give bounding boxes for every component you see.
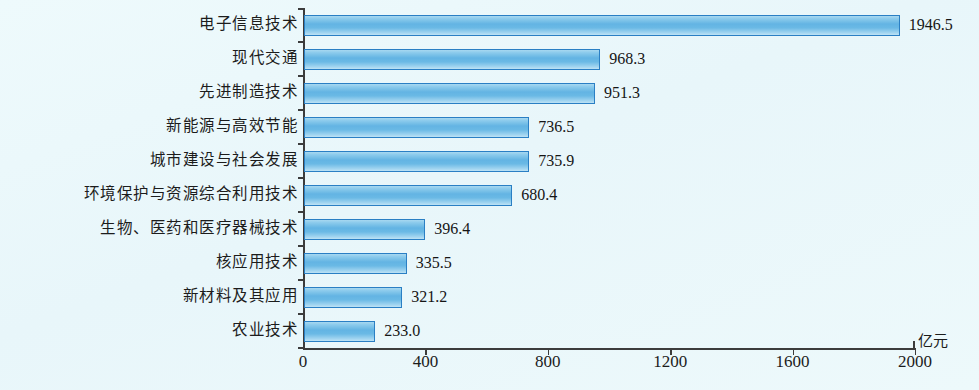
- x-axis-tick-label: 400: [413, 352, 439, 372]
- y-axis-tick: [298, 279, 304, 281]
- y-axis-tick: [298, 245, 304, 247]
- y-axis-top-cap: [298, 8, 304, 10]
- bar-value-label: 321.2: [411, 289, 447, 305]
- y-axis-tick: [298, 347, 304, 349]
- bar-value-label: 951.3: [604, 85, 640, 101]
- axis-unit-label: 亿元: [918, 329, 948, 350]
- y-axis-tick: [298, 41, 304, 43]
- category-label: 城市建设与社会发展: [150, 153, 299, 169]
- bar-value-label: 396.4: [434, 221, 470, 237]
- category-label: 新材料及其应用: [183, 289, 299, 305]
- bar-value-label: 233.0: [384, 323, 420, 339]
- bar-value-label: 1946.5: [909, 17, 953, 33]
- x-axis-tick-label: 800: [535, 352, 561, 372]
- category-label: 农业技术: [232, 323, 298, 339]
- bar: [304, 49, 600, 70]
- y-axis-tick: [298, 177, 304, 179]
- bar-chart: 电子信息技术现代交通先进制造技术新能源与高效节能城市建设与社会发展环境保护与资源…: [0, 0, 979, 390]
- bar-value-label: 968.3: [609, 51, 645, 67]
- x-axis-tick-label: 2000: [898, 352, 932, 372]
- y-axis-tick: [298, 109, 304, 111]
- bar: [304, 117, 529, 138]
- category-label: 环境保护与资源综合利用技术: [84, 187, 299, 203]
- bar: [304, 287, 402, 308]
- bar: [304, 185, 512, 206]
- y-axis-tick: [298, 143, 304, 145]
- y-axis-tick: [298, 211, 304, 213]
- category-label: 先进制造技术: [199, 85, 298, 101]
- category-label: 生物、医药和医疗器械技术: [100, 221, 298, 237]
- bar: [304, 219, 425, 240]
- bar: [304, 151, 529, 172]
- x-axis-tick-label: 0: [299, 352, 308, 372]
- x-axis-tick-label: 1600: [776, 352, 810, 372]
- bar-value-label: 736.5: [538, 119, 574, 135]
- bar: [304, 15, 900, 36]
- y-axis-tick: [298, 75, 304, 77]
- category-label: 现代交通: [232, 51, 298, 67]
- x-axis-tick-label: 1200: [653, 352, 687, 372]
- category-label: 新能源与高效节能: [166, 119, 298, 135]
- bar-value-label: 680.4: [521, 187, 557, 203]
- bar-value-label: 735.9: [538, 153, 574, 169]
- bar: [304, 253, 407, 274]
- category-label: 核应用技术: [216, 255, 299, 271]
- x-axis-line: [303, 348, 915, 350]
- y-axis-tick: [298, 313, 304, 315]
- bar: [304, 83, 595, 104]
- bar: [304, 321, 375, 342]
- bar-value-label: 335.5: [416, 255, 452, 271]
- category-label: 电子信息技术: [199, 17, 298, 33]
